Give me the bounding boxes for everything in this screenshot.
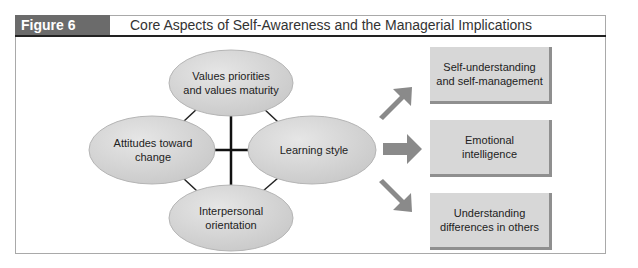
- box-understanding-differences: Understanding differences in others: [430, 193, 552, 250]
- arrow-right-icon: [383, 134, 422, 164]
- label-values: Values priorities and values maturity: [169, 69, 293, 97]
- arrows: [379, 87, 422, 212]
- label-attitudes: Attitudes toward change: [90, 136, 216, 164]
- label-learning: Learning style: [250, 143, 378, 157]
- cross-lines: [214, 113, 248, 187]
- box-self-understanding: Self-understanding and self-management: [430, 47, 552, 104]
- box-emotional-intelligence: Emotional intelligence: [430, 120, 552, 177]
- arrow-up-right-icon: [379, 87, 412, 120]
- label-interpersonal: Interpersonal orientation: [169, 204, 293, 232]
- arrow-down-right-icon: [379, 179, 412, 212]
